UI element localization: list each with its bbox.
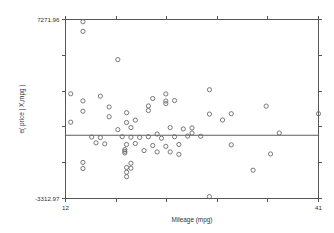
data-point [229,112,233,116]
data-point [220,118,224,122]
y-axis-tick-label-min: -3312.97 [35,195,60,202]
data-point [124,175,128,179]
data-point [69,120,73,124]
data-point [168,150,172,154]
data-point [116,58,120,62]
data-point [142,148,146,152]
data-point [264,104,268,108]
data-point [129,161,133,165]
data-point [98,94,102,98]
data-point [94,141,98,145]
data-point [155,150,159,154]
data-point [116,128,120,132]
data-point [138,135,142,139]
data-point [146,104,150,108]
data-point [186,134,190,138]
data-point [164,92,168,96]
data-point [81,29,85,33]
data-point [168,125,172,129]
y-axis-tick-label-max: 7271.96 [37,16,60,23]
data-point [207,112,211,116]
data-point [229,143,233,147]
data-point [107,105,111,109]
data-point [181,127,185,131]
data-point [277,131,281,135]
data-point [151,96,155,100]
data-point [129,135,133,139]
data-point [164,144,168,148]
data-point [146,108,150,112]
data-point [124,120,128,124]
data-point [207,88,211,92]
plot-frame [66,20,319,199]
data-point [177,152,181,156]
x-axis-tick-label-max: 41 [315,204,322,211]
data-point [69,92,73,96]
x-axis-title: Mileage (mpg) [172,216,213,224]
data-point [172,98,176,102]
data-point [98,135,102,139]
y-axis-title: e( price | X,mpg ) [18,85,26,134]
data-point [81,160,85,164]
plot-canvas: 7271.96-3312.971241Mileage (mpg)e( price… [0,0,334,233]
x-axis-tick-label-min: 12 [62,204,69,211]
data-point [81,166,85,170]
data-point [129,125,133,129]
data-point [124,170,128,174]
data-point [124,165,128,169]
data-point [124,142,128,146]
data-point [81,20,85,24]
data-point [124,111,128,115]
data-point [151,143,155,147]
data-point [190,131,194,135]
data-point [251,168,255,172]
data-point [133,141,137,145]
data-point [159,136,163,140]
data-point [129,166,133,170]
data-point [103,142,107,146]
data-point [81,99,85,103]
data-point [81,109,85,113]
data-point [190,126,194,130]
scatter-plot-figure: 7271.96-3312.971241Mileage (mpg)e( price… [0,0,334,233]
data-point [268,152,272,156]
data-point [177,142,181,146]
data-point [133,118,137,122]
data-point [107,115,111,119]
